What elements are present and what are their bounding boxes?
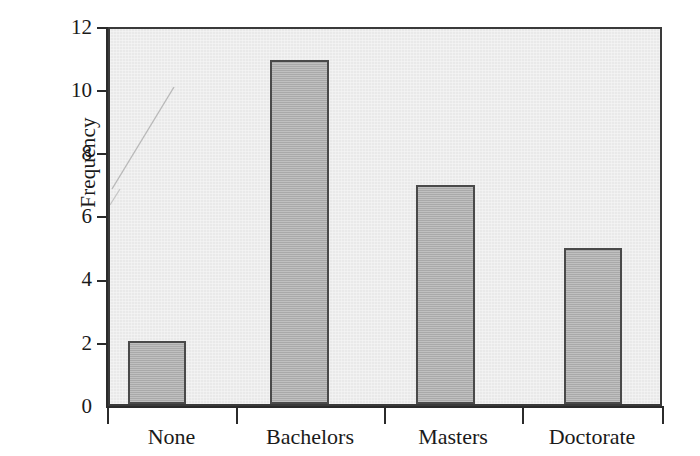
x-tick-label-none: None: [107, 424, 236, 450]
y-tick-label-4: 4: [52, 269, 92, 290]
y-tick-label-10: 10: [52, 80, 92, 101]
y-tick-label-6: 6: [52, 206, 92, 227]
bar-bachelors: [270, 60, 329, 404]
bar-none: [128, 341, 186, 404]
x-tick-label-masters: Masters: [384, 424, 522, 450]
y-tick-label-8: 8: [52, 143, 92, 164]
x-tick-mark-1: [236, 407, 238, 424]
x-tick-mark-4: [662, 407, 664, 424]
x-tick-label-bachelors: Bachelors: [236, 424, 384, 450]
bar-chart-figure: Frequency 12 10 8 6 4 2 0 None Bachelors…: [0, 0, 700, 456]
x-tick-mark-0: [107, 407, 109, 424]
y-tick-label-12: 12: [52, 17, 92, 38]
y-tick-label-0: 0: [52, 396, 92, 417]
bar-doctorate: [564, 248, 622, 404]
plot-area: [108, 27, 662, 406]
x-tick-label-doctorate: Doctorate: [522, 424, 662, 450]
bar-masters: [416, 185, 475, 404]
x-tick-mark-2: [384, 407, 386, 424]
x-tick-mark-3: [522, 407, 524, 424]
y-tick-label-2: 2: [52, 333, 92, 354]
